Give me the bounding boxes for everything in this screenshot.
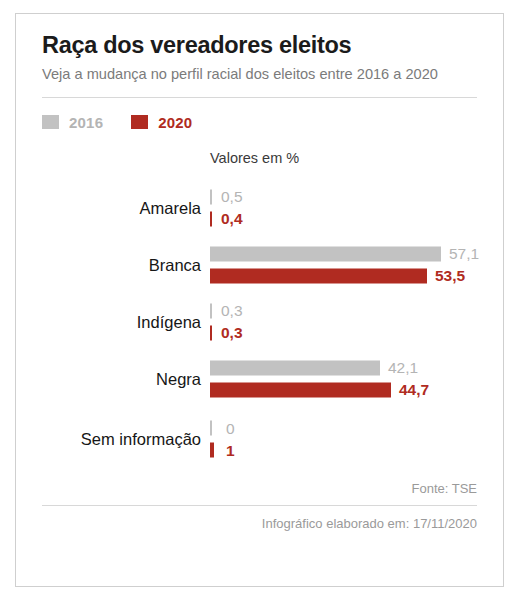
source-text: Fonte: TSE xyxy=(42,481,477,496)
bar-2020 xyxy=(210,325,212,340)
bar-chart: Amarela 0,5 0,4 Branca 57,1 xyxy=(16,179,503,471)
legend-swatch-2016-icon xyxy=(42,115,59,129)
page-subtitle: Veja a mudança no perfil racial dos elei… xyxy=(42,65,477,84)
bar-row-2020: 0,4 xyxy=(210,210,510,227)
chart-group-sem-informacao: Sem informação 0 1 xyxy=(16,407,503,471)
bar-pair: 57,1 53,5 xyxy=(210,245,510,284)
header-divider xyxy=(42,97,477,98)
credit-text: Infográfico elaborado em: 17/11/2020 xyxy=(42,516,477,531)
bar-2016 xyxy=(210,303,212,318)
bar-value-2016: 42,1 xyxy=(388,359,418,377)
legend-swatch-2020-icon xyxy=(131,115,148,129)
bar-value-2016: 0 xyxy=(226,419,235,437)
bar-value-2016: 57,1 xyxy=(449,245,479,263)
category-label: Negra xyxy=(16,369,201,388)
bar-2016 xyxy=(210,360,380,375)
bar-row-2020: 44,7 xyxy=(210,381,510,398)
bar-2020 xyxy=(210,382,391,397)
units-caption: Valores em % xyxy=(16,150,503,166)
header: Raça dos vereadores eleitos Veja a mudan… xyxy=(16,14,503,84)
category-label: Sem informação xyxy=(16,430,201,449)
chart-group-negra: Negra 42,1 44,7 xyxy=(16,350,503,407)
bar-row-2016: 57,1 xyxy=(210,245,510,262)
bar-value-2020: 53,5 xyxy=(435,267,465,285)
category-label: Indígena xyxy=(16,312,201,331)
bar-row-2016: 0 xyxy=(210,420,510,437)
legend-item-2020: 2020 xyxy=(131,114,192,131)
bar-2020 xyxy=(210,443,214,458)
category-label: Amarela xyxy=(16,198,201,217)
bar-2020 xyxy=(210,268,427,283)
bar-row-2020: 0,3 xyxy=(210,324,510,341)
legend-label-2020: 2020 xyxy=(158,114,192,131)
bar-value-2016: 0,5 xyxy=(221,188,243,206)
legend-item-2016: 2016 xyxy=(42,114,103,131)
legend-label-2016: 2016 xyxy=(69,114,103,131)
bar-row-2020: 53,5 xyxy=(210,267,510,284)
bar-pair: 42,1 44,7 xyxy=(210,359,510,398)
bar-row-2016: 0,5 xyxy=(210,188,510,205)
bar-row-2020: 1 xyxy=(210,442,510,459)
bar-pair: 0,5 0,4 xyxy=(210,188,510,227)
bar-value-2020: 1 xyxy=(226,441,235,459)
bar-row-2016: 0,3 xyxy=(210,302,510,319)
bar-value-2020: 44,7 xyxy=(399,381,429,399)
bar-value-2020: 0,4 xyxy=(221,210,243,228)
bar-value-2020: 0,3 xyxy=(221,324,243,342)
bar-2020 xyxy=(210,211,212,226)
bar-2016 xyxy=(210,421,212,436)
chart-group-amarela: Amarela 0,5 0,4 xyxy=(16,179,503,236)
bar-pair: 0,3 0,3 xyxy=(210,302,510,341)
chart-group-indigena: Indígena 0,3 0,3 xyxy=(16,293,503,350)
infographic-card: Raça dos vereadores eleitos Veja a mudan… xyxy=(15,13,504,587)
bar-row-2016: 42,1 xyxy=(210,359,510,376)
bar-pair: 0 1 xyxy=(210,420,510,459)
bar-2016 xyxy=(210,246,441,261)
bar-2016 xyxy=(210,189,212,204)
chart-legend: 2016 2020 xyxy=(42,113,503,131)
footer-divider xyxy=(42,505,477,506)
chart-group-branca: Branca 57,1 53,5 xyxy=(16,236,503,293)
bar-value-2016: 0,3 xyxy=(221,302,243,320)
page-title: Raça dos vereadores eleitos xyxy=(42,33,477,59)
category-label: Branca xyxy=(16,255,201,274)
